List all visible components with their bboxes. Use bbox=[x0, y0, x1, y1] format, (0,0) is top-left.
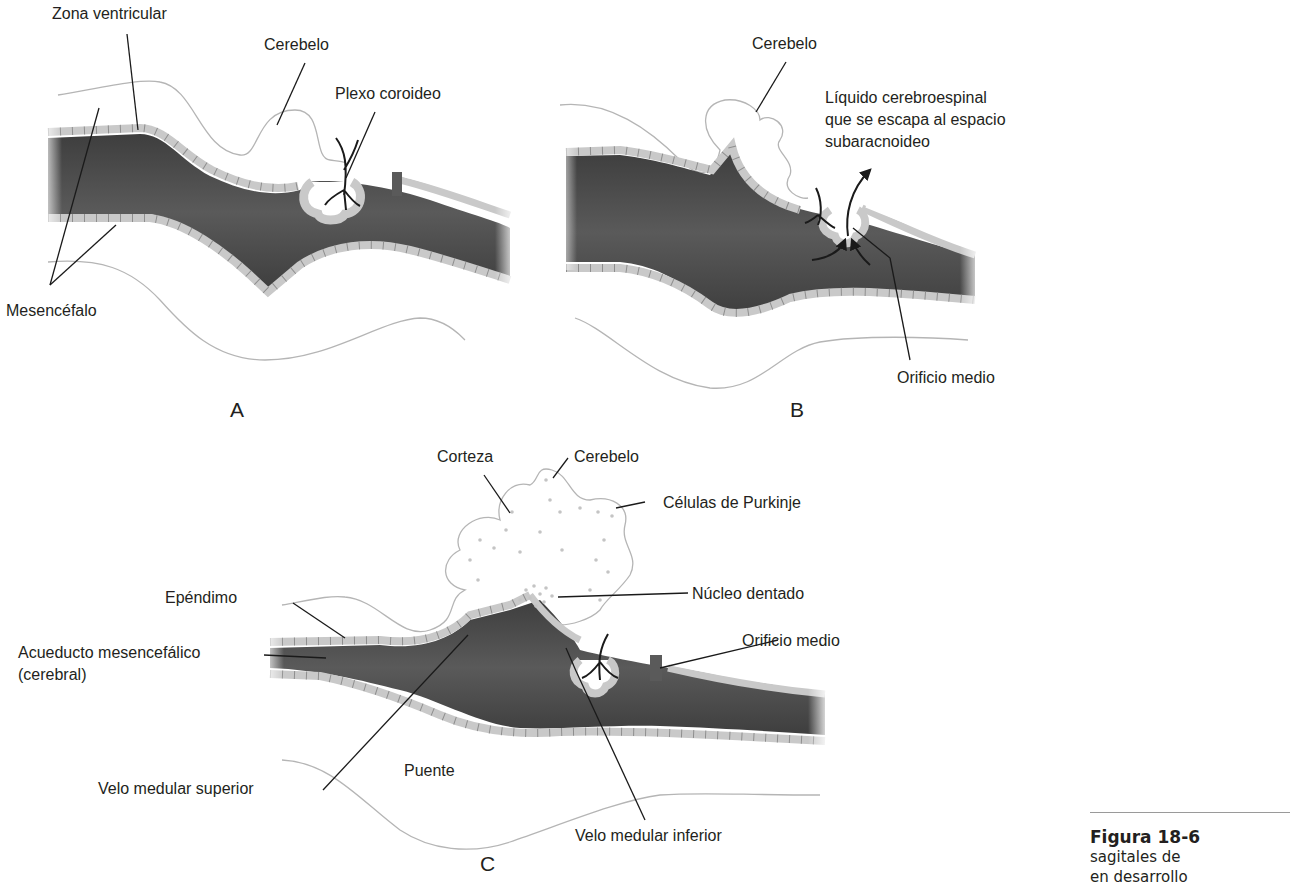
panel-letter-c: C bbox=[480, 852, 495, 876]
choroid-plexus-a bbox=[304, 138, 361, 220]
label-corteza: Corteza bbox=[437, 447, 493, 466]
label-puente: Puente bbox=[404, 761, 455, 780]
panel-c-lower-outline bbox=[282, 760, 820, 849]
label-nucleo-dentado: Núcleo dentado bbox=[692, 584, 804, 603]
caption-line-3: en desarrollo bbox=[1090, 867, 1290, 886]
caption-rule bbox=[1090, 812, 1290, 813]
label-liquido-3: subaracnoideo bbox=[825, 132, 930, 151]
panel-letter-a: A bbox=[230, 398, 244, 422]
label-ependimo: Epéndimo bbox=[165, 588, 237, 607]
label-velo-inferior: Velo medular inferior bbox=[575, 826, 722, 845]
label-zona-ventricular: Zona ventricular bbox=[52, 4, 167, 23]
label-acueducto-1: Acueducto mesencefálico bbox=[18, 643, 200, 662]
label-mesencefalo: Mesencéfalo bbox=[6, 301, 97, 320]
label-velo-superior: Velo medular superior bbox=[98, 779, 254, 798]
label-cerebelo-a: Cerebelo bbox=[264, 35, 329, 54]
choroid-plexus-c bbox=[574, 634, 618, 694]
panel-c bbox=[262, 458, 830, 849]
label-acueducto-2: (cerebral) bbox=[18, 665, 86, 684]
label-cerebelo-b: Cerebelo bbox=[752, 34, 817, 53]
caption-line-2: sagitales de bbox=[1090, 847, 1290, 867]
panel-a-ventricle bbox=[48, 134, 510, 290]
label-plexo-coroideo: Plexo coroideo bbox=[335, 84, 441, 103]
figure-caption: Figura 18-6 sagitales de en desarrollo bbox=[1090, 812, 1290, 886]
label-celulas-purkinje: Células de Purkinje bbox=[663, 493, 801, 512]
caption-figure-number: Figura 18-6 bbox=[1090, 827, 1290, 847]
panel-a bbox=[40, 34, 517, 360]
panel-letter-b: B bbox=[790, 398, 804, 422]
panel-c-outer-outline bbox=[282, 469, 633, 632]
label-orificio-medio-c: Orificio medio bbox=[742, 631, 840, 650]
label-liquido-2: que se escapa al espacio bbox=[825, 110, 1006, 129]
label-orificio-medio-b: Orificio medio bbox=[897, 368, 995, 387]
purkinje-cells bbox=[468, 478, 614, 602]
label-cerebelo-c: Cerebelo bbox=[574, 447, 639, 466]
label-liquido-1: Líquido cerebroespinal bbox=[825, 88, 987, 107]
